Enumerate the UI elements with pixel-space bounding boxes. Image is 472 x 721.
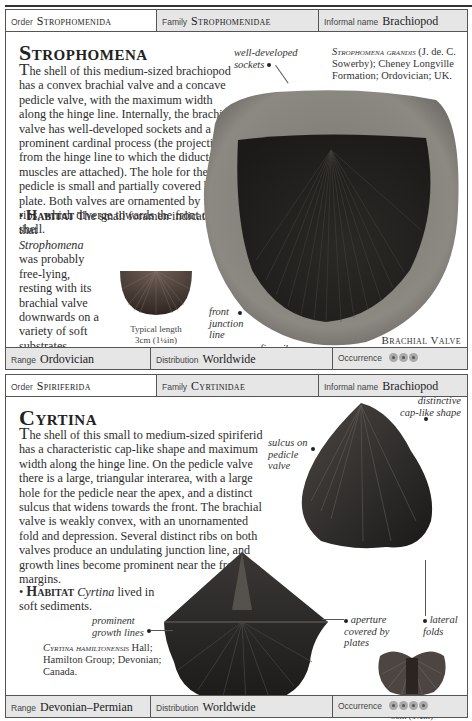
annotation-lateral-folds: lateral folds <box>423 614 467 637</box>
occurrence-dot-icon <box>419 701 428 710</box>
occurrence-dot-icon <box>399 701 408 710</box>
entry-footer: Range Devonian–Permian Distribution Worl… <box>6 695 467 717</box>
annotation-text: lateral folds <box>423 614 458 637</box>
occurrence-dot-icon <box>399 353 408 362</box>
habitat-label: Habitat <box>26 208 74 223</box>
informal-name-value: Brachiopod <box>382 379 438 394</box>
informal-name-cell: Informal name Brachiopod <box>319 375 467 396</box>
drop-cap: T <box>19 424 29 443</box>
habitat-genus: Strophomena <box>19 238 84 252</box>
occurrence-dot-icon <box>389 353 398 362</box>
typical-length-label: Typical length <box>111 324 201 335</box>
range-value: Devonian–Permian <box>40 700 133 715</box>
occurrence-cell: Occurrence <box>333 348 467 369</box>
fossil-entry-cyrtina: Order Spiriferida Family Cyrtinidae Info… <box>5 374 468 718</box>
order-value: Spiriferida <box>37 379 91 394</box>
annotation-sulcus-on-pedicle-valve: sulcus on pedicle valve <box>268 437 310 472</box>
typical-length-caption: Typical length 3cm (1¼in) <box>111 324 201 345</box>
pointer-dot <box>238 311 242 315</box>
distribution-cell: Distribution Worldwide <box>151 696 333 717</box>
annotation-text: aperture covered by plates <box>344 614 389 648</box>
occurrence-dot-icon <box>409 353 418 362</box>
annotation-distinctive-cap-like-shape: distinctive cap-like shape <box>399 395 461 418</box>
occurrence-dot-icon <box>409 701 418 710</box>
small-shell-illustration <box>374 644 450 698</box>
bullet: • <box>19 209 23 223</box>
range-cell: Range Ordovician <box>6 348 151 369</box>
annotation-text: prominent growth lines <box>92 615 144 638</box>
occurrence-label: Occurrence <box>338 701 382 711</box>
family-label: Family <box>162 17 187 27</box>
annotation-aperture-covered-by-plates: aperture covered by plates <box>344 614 400 649</box>
typical-length-value: 3cm (1¼in) <box>111 335 201 346</box>
range-label: Range <box>11 703 36 713</box>
annotation-prominent-growth-lines: prominent growth lines <box>92 615 152 638</box>
habitat-continued: Strophomena was probably free-lying, res… <box>19 238 99 353</box>
distribution-value: Worldwide <box>203 700 256 715</box>
leader-line <box>322 619 344 620</box>
distribution-label: Distribution <box>156 703 199 713</box>
order-cell: Order Strophomenida <box>6 10 157 31</box>
page-top-rule <box>5 5 472 7</box>
fossil-entry-strophomena: Order Strophomenida Family Strophomenida… <box>5 9 468 370</box>
occurrence-dot-icon <box>389 701 398 710</box>
drop-cap: T <box>19 60 29 79</box>
family-value: Cyrtinidae <box>191 379 245 394</box>
family-value: Strophomenidae <box>191 14 271 29</box>
entry-footer: Range Ordovician Distribution Worldwide … <box>6 347 467 369</box>
informal-name-cell: Informal name Brachiopod <box>319 10 467 31</box>
annotation-text: sulcus on pedicle valve <box>268 437 307 471</box>
distribution-value: Worldwide <box>203 352 256 367</box>
pointer-dot <box>311 447 315 451</box>
family-cell: Family Strophomenidae <box>157 10 319 31</box>
distribution-cell: Distribution Worldwide <box>151 348 333 369</box>
species-name: Cyrtina hamiltonensis <box>43 642 129 653</box>
entry-header: Order Strophomenida Family Strophomenida… <box>6 10 467 32</box>
species-citation: Cyrtina hamiltonensis Hall; Hamilton Gro… <box>43 642 168 678</box>
leader-line <box>151 630 173 631</box>
order-cell: Order Spiriferida <box>6 375 157 396</box>
annotation-well-developed-sockets: well-developed sockets <box>234 47 304 70</box>
informal-name-value: Brachiopod <box>382 14 438 29</box>
informal-name-label: Informal name <box>324 17 378 27</box>
order-value: Strophomenida <box>37 14 112 29</box>
occurrence-rating <box>389 352 418 361</box>
family-label: Family <box>162 382 187 392</box>
occurrence-rating <box>389 700 428 709</box>
pointer-dot <box>344 619 348 623</box>
interarea-fossil-photo <box>162 550 334 710</box>
occurrence-label: Occurrence <box>338 353 382 363</box>
annotation-text: well-developed sockets <box>234 47 298 70</box>
habitat-post: was probably free-lying, resting with it… <box>19 252 99 352</box>
occurrence-cell: Occurrence <box>333 696 467 717</box>
range-value: Ordovician <box>40 352 94 367</box>
species-name: Strophomena grandis <box>332 46 416 57</box>
range-label: Range <box>11 355 36 365</box>
pointer-dot <box>423 619 427 623</box>
entry-header: Order Spiriferida Family Cyrtinidae Info… <box>6 375 467 397</box>
informal-name-label: Informal name <box>324 382 378 392</box>
distribution-label: Distribution <box>156 355 199 365</box>
range-cell: Range Devonian–Permian <box>6 696 151 717</box>
order-label: Order <box>11 17 33 27</box>
pointer-dot <box>267 63 271 67</box>
order-label: Order <box>11 382 33 392</box>
bullet: • <box>19 585 23 599</box>
species-citation: Strophomena grandis (J. de. C. Sowerby);… <box>332 46 462 82</box>
pointer-dot <box>424 417 428 421</box>
small-shell-illustration <box>118 269 194 317</box>
annotation-front-junction-line: front junction line <box>209 306 257 341</box>
habitat-label: Habitat <box>26 584 74 599</box>
leader-line <box>425 560 426 616</box>
habitat-text: • Habitat Cyrtina lived in soft sediment… <box>19 585 159 614</box>
family-cell: Family Cyrtinidae <box>157 375 319 396</box>
habitat-genus: Cyrtina <box>77 585 114 599</box>
annotation-text: distinctive cap-like shape <box>400 395 461 418</box>
pedicle-valve-fossil-photo <box>291 401 441 561</box>
